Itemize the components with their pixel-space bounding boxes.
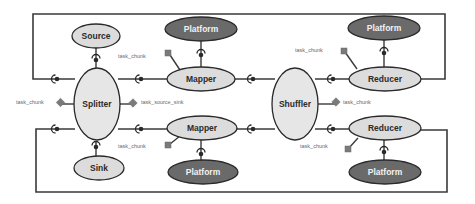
node-splitter[interactable]: Splitter [74, 68, 120, 140]
port-label-splitter-right: task_source_sink [141, 99, 184, 105]
node-mapper-bottom[interactable]: Mapper [167, 116, 237, 140]
port-diamond-icon [56, 98, 64, 106]
node-splitter-label: Splitter [82, 99, 112, 109]
node-platform-label: Platform [367, 23, 402, 33]
node-source-label: Source [82, 31, 111, 41]
port-label-splitter-left: task_chunk [16, 99, 44, 105]
node-mapper-top[interactable]: Mapper [167, 67, 235, 91]
node-reducer-top-label: Reducer [368, 74, 403, 84]
port-square-icon [165, 142, 171, 148]
node-platform-reducer-top[interactable]: Platform [348, 16, 420, 40]
node-reducer-bottom-label: Reducer [368, 123, 403, 133]
port-label-reducer-bottom: task_chunk [300, 143, 328, 149]
node-platform-mapper-top[interactable]: Platform [165, 17, 237, 41]
port-square-icon [341, 48, 347, 54]
port-diamond-icon [332, 98, 340, 106]
node-platform-label: Platform [186, 167, 221, 177]
port-diamond-icon [129, 99, 137, 107]
node-mapper-top-label: Mapper [186, 74, 217, 84]
node-sink-label: Sink [90, 163, 108, 173]
node-reducer-top[interactable]: Reducer [349, 67, 421, 91]
port-square-icon [165, 50, 171, 56]
node-shuffler[interactable]: Shuffler [272, 68, 318, 140]
port-label-sink: task_chunk [118, 143, 146, 149]
node-sink[interactable]: Sink [74, 156, 124, 180]
node-mapper-bottom-label: Mapper [187, 123, 218, 133]
node-shuffler-label: Shuffler [279, 99, 312, 109]
node-platform-label: Platform [184, 24, 219, 34]
node-platform-mapper-bottom[interactable]: Platform [168, 160, 238, 184]
node-platform-reducer-bottom[interactable]: Platform [349, 160, 421, 184]
port-label-reducer-top: task_chunk [295, 47, 323, 53]
architecture-diagram: Source Sink Splitter Shuffler Mapper Map… [0, 0, 475, 204]
node-platform-label: Platform [368, 167, 403, 177]
node-reducer-bottom[interactable]: Reducer [349, 116, 421, 140]
port-label-source: task_chunk [118, 53, 146, 59]
port-square-icon [345, 146, 351, 152]
node-source[interactable]: Source [72, 24, 120, 48]
port-label-shuffler: task_chunk [343, 99, 371, 105]
